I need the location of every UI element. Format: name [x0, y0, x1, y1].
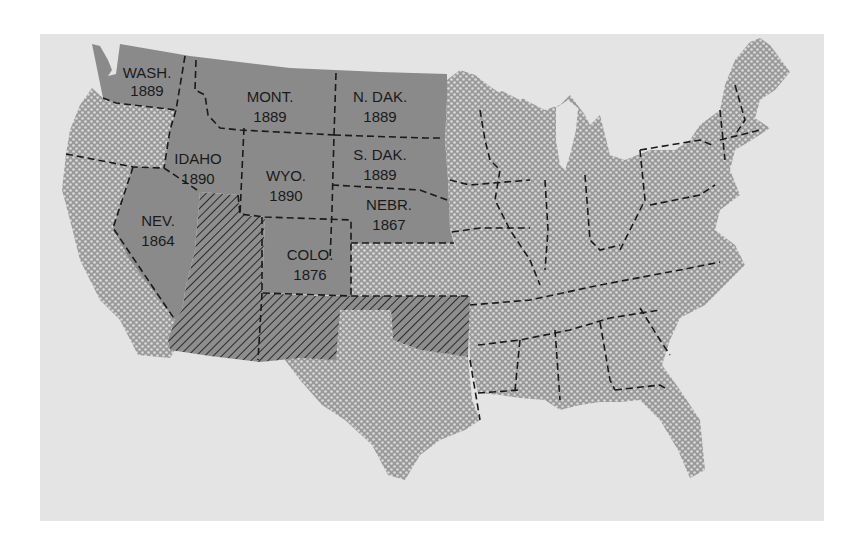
svg-text:MONT.: MONT.	[247, 88, 294, 105]
state-name-nev: NEV.	[141, 212, 175, 229]
svg-text:1890: 1890	[269, 187, 302, 204]
svg-text:COLO.: COLO.	[287, 246, 334, 263]
svg-text:1889: 1889	[130, 82, 163, 99]
state-year-ndak: 1889	[363, 108, 396, 125]
state-year-colo: 1876	[293, 266, 326, 283]
state-name-wash: WASH.	[123, 64, 172, 81]
svg-text:1889: 1889	[363, 108, 396, 125]
svg-text:1889: 1889	[363, 166, 396, 183]
svg-text:IDAHO: IDAHO	[174, 150, 222, 167]
state-name-idaho: IDAHO	[174, 150, 222, 167]
state-name-colo: COLO.	[287, 246, 334, 263]
state-year-nebr: 1867	[372, 216, 405, 233]
svg-text:N. DAK.: N. DAK.	[353, 88, 407, 105]
svg-text:NEBR.: NEBR.	[366, 196, 412, 213]
svg-text:1867: 1867	[372, 216, 405, 233]
us-map: WASH. 1889 MONT. 1889 N. DAK. 1889 IDAHO…	[0, 0, 847, 551]
state-year-nev: 1864	[141, 232, 174, 249]
state-year-mont: 1889	[253, 108, 286, 125]
svg-text:WYO.: WYO.	[266, 167, 306, 184]
state-year-idaho: 1890	[181, 170, 214, 187]
svg-text:WASH.: WASH.	[123, 64, 172, 81]
svg-text:S. DAK.: S. DAK.	[353, 146, 406, 163]
svg-text:1890: 1890	[181, 170, 214, 187]
state-year-wyo: 1890	[269, 187, 302, 204]
state-name-sdak: S. DAK.	[353, 146, 406, 163]
state-name-mont: MONT.	[247, 88, 294, 105]
svg-text:1889: 1889	[253, 108, 286, 125]
state-name-ndak: N. DAK.	[353, 88, 407, 105]
svg-text:NEV.: NEV.	[141, 212, 175, 229]
state-year-sdak: 1889	[363, 166, 396, 183]
state-year-wash: 1889	[130, 82, 163, 99]
state-name-wyo: WYO.	[266, 167, 306, 184]
svg-text:1864: 1864	[141, 232, 174, 249]
state-name-nebr: NEBR.	[366, 196, 412, 213]
svg-text:1876: 1876	[293, 266, 326, 283]
